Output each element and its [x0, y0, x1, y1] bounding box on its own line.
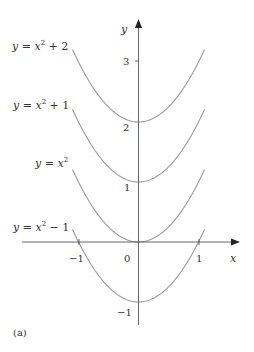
- figure-caption: (a): [13, 327, 27, 338]
- y-tick-label-2: 2: [123, 122, 129, 133]
- x-tick-label-0: 0: [124, 253, 130, 264]
- x-tick-label-neg1: −1: [69, 253, 84, 264]
- curve-label-minus1: y = x2 − 1: [12, 220, 69, 234]
- curve-label-plus1: y = x2 + 1: [12, 98, 69, 112]
- x-tick-label-1: 1: [196, 253, 202, 264]
- y-tick-label-1: 1: [124, 182, 130, 193]
- y-axis-label: y: [120, 23, 128, 36]
- curve-label-plus2: y = x2 + 2: [11, 39, 68, 53]
- curve-label-plain: y = x2: [34, 156, 68, 170]
- parabola-family-chart: y x 3 2 1 −1 −1 0 1 y = x2 + 2 y = x2 + …: [0, 0, 254, 352]
- y-tick-label-3: 3: [123, 56, 129, 67]
- y-tick-label-neg1: −1: [117, 307, 132, 318]
- x-axis-label: x: [230, 252, 237, 265]
- y-axis-arrow-icon: [135, 19, 142, 28]
- x-axis-arrow-icon: [231, 239, 240, 246]
